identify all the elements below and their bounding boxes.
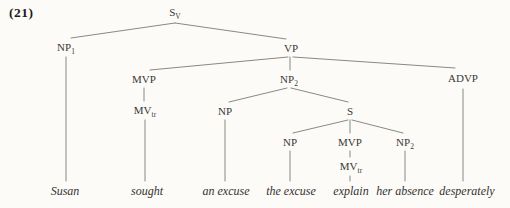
node-s-embedded: S: [347, 104, 353, 118]
edge-vp-mvp: [150, 57, 288, 70]
terminal-sought: sought: [131, 184, 163, 198]
edge-np2-np: [229, 88, 287, 102]
terminal-the-excuse: the excuse: [266, 184, 316, 198]
node-mv-tr-embedded: MVtr: [340, 159, 362, 178]
node-np1-subscript: 1: [71, 47, 75, 56]
edge-s-np2: [352, 120, 403, 133]
example-number: (21): [9, 5, 34, 21]
node-np2-embedded-object: NP2: [396, 135, 414, 154]
node-np-an-excuse-label: NP: [218, 105, 232, 117]
node-mvp-matrix: MVP: [132, 72, 156, 86]
node-s-matrix-subscript: V: [175, 12, 180, 21]
node-advp: ADVP: [448, 71, 478, 85]
terminal-desperately: desperately: [439, 184, 494, 198]
edge-vp-advp: [293, 57, 455, 68]
node-advp-label: ADVP: [448, 72, 478, 84]
node-np-embedded-subject-label: NP: [283, 136, 297, 148]
node-mvp-embedded-label: MVP: [338, 136, 362, 148]
node-vp: VP: [284, 41, 298, 55]
terminal-susan: Susan: [51, 184, 80, 198]
node-np-embedded-subject: NP: [283, 135, 297, 149]
edge-np2-s: [291, 88, 348, 102]
syntax-tree-figure: (21) SV NP1 VP MVP NP2 ADVP MVtr NP S NP…: [0, 0, 510, 208]
node-np1-label: NP: [57, 41, 71, 53]
node-np2-embedded-object-subscript: 2: [410, 142, 414, 151]
edge-s-np: [293, 120, 348, 133]
node-mvp-matrix-label: MVP: [132, 73, 156, 85]
terminal-her-absence: her absence: [376, 184, 434, 198]
edge-sv-np1: [71, 23, 175, 38]
tree-edges: [0, 0, 510, 208]
node-np2-object-subscript: 2: [294, 79, 298, 88]
node-np1-subject: NP1: [57, 40, 75, 59]
node-np-an-excuse: NP: [218, 104, 232, 118]
node-mvp-embedded: MVP: [338, 135, 362, 149]
node-np2-object: NP2: [280, 72, 298, 91]
edge-sv-vp: [175, 23, 286, 39]
node-vp-label: VP: [284, 42, 298, 54]
node-mv-tr-embedded-label: MV: [340, 160, 358, 172]
node-s-embedded-label: S: [347, 105, 353, 117]
node-np2-embedded-object-label: NP: [396, 136, 410, 148]
node-np2-object-label: NP: [280, 73, 294, 85]
terminal-explain: explain: [333, 184, 368, 198]
node-mv-tr-matrix: MVtr: [134, 103, 156, 122]
node-mv-tr-embedded-subscript: tr: [358, 166, 363, 175]
node-mv-tr-matrix-label: MV: [134, 104, 152, 116]
node-s-matrix: SV: [169, 5, 181, 24]
terminal-an-excuse: an excuse: [203, 184, 250, 198]
node-mv-tr-matrix-subscript: tr: [152, 110, 157, 119]
